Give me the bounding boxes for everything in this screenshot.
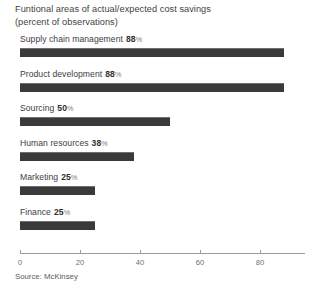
percent-symbol: % (67, 104, 73, 113)
bar-label: Supply chain management88% (20, 34, 142, 45)
bar-row: Sourcing50% (0, 103, 322, 129)
x-axis-tick (140, 250, 141, 254)
x-axis-tick (20, 250, 21, 254)
bar-category: Product development (20, 69, 102, 79)
bar-fill (20, 117, 170, 126)
percent-symbol: % (115, 70, 121, 79)
bar-row: Marketing25% (0, 172, 322, 198)
bar-track (20, 117, 170, 126)
bar-category: Sourcing (20, 103, 54, 113)
bar-fill (20, 83, 284, 92)
bar-fill (20, 221, 95, 230)
x-axis-tick (80, 250, 81, 254)
bar-value: 25 (54, 207, 64, 217)
bar-label: Finance25% (20, 207, 70, 218)
x-axis-tick (200, 250, 201, 254)
bar-row: Product development88% (0, 69, 322, 95)
bar-track (20, 83, 284, 92)
x-axis-tick-label: 80 (256, 258, 264, 267)
bar-value: 88 (126, 34, 136, 44)
x-axis-tick-label: 60 (196, 258, 204, 267)
bar-track (20, 152, 134, 161)
bar-value: 25 (61, 172, 71, 182)
bar-value: 88 (105, 69, 115, 79)
bar-category: Marketing (20, 172, 58, 182)
bar-label: Sourcing50% (20, 103, 74, 114)
chart-title: Funtional areas of actual/expected cost … (15, 3, 315, 16)
x-axis-tick-label: 20 (76, 258, 84, 267)
chart-subtitle: (percent of observations) (15, 16, 315, 29)
percent-symbol: % (71, 173, 77, 182)
bar-fill (20, 186, 95, 195)
percent-symbol: % (64, 208, 70, 217)
bar-category: Human resources (20, 138, 89, 148)
chart-figure: Funtional areas of actual/expected cost … (0, 0, 322, 296)
bar-label: Human resources38% (20, 138, 108, 149)
bar-category: Finance (20, 207, 51, 217)
bar-row: Finance25% (0, 207, 322, 233)
bar-value: 50 (57, 103, 67, 113)
bar-fill (20, 48, 284, 57)
bar-track (20, 48, 284, 57)
bar-value: 38 (92, 138, 102, 148)
x-axis-tick-label: 0 (18, 258, 22, 267)
percent-symbol: % (136, 35, 142, 44)
bar-category: Supply chain management (20, 34, 123, 44)
bar-track (20, 221, 95, 230)
bar-track (20, 186, 95, 195)
x-axis-tick (260, 250, 261, 254)
percent-symbol: % (101, 139, 107, 148)
bar-row: Human resources38% (0, 138, 322, 164)
source-note: Source: McKinsey (15, 272, 78, 282)
bar-label: Product development88% (20, 69, 121, 80)
chart-title-block: Funtional areas of actual/expected cost … (15, 3, 315, 28)
plot-area: Supply chain management88% Product devel… (0, 34, 322, 250)
x-axis-tick-label: 40 (136, 258, 144, 267)
bar-row: Supply chain management88% (0, 34, 322, 60)
bar-label: Marketing25% (20, 172, 77, 183)
bar-fill (20, 152, 134, 161)
x-axis-line (20, 253, 305, 254)
x-axis: 0 20 40 60 80 (0, 253, 322, 254)
